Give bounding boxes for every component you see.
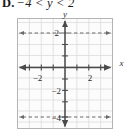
choice-label-line: D.−4 < y < 2 <box>2 0 74 10</box>
x-axis-label: x <box>119 58 124 68</box>
y-tick-label-neg4: −4 <box>51 113 61 123</box>
answer-choice-panel: D.−4 < y < 2 <box>0 0 132 139</box>
coordinate-graph: −2 2 2 −2 −4 y x <box>0 10 132 139</box>
choice-expression: −4 < y < 2 <box>15 0 75 10</box>
y-tick-label-neg2: −2 <box>51 86 61 96</box>
graph-svg: −2 2 2 −2 −4 y x <box>0 10 132 139</box>
x-tick-label-pos2: 2 <box>88 73 93 83</box>
y-axis-label: y <box>62 10 67 19</box>
choice-letter: D. <box>2 0 15 10</box>
y-tick-label-pos2: 2 <box>55 28 60 38</box>
x-tick-label-neg2: −2 <box>33 73 43 83</box>
